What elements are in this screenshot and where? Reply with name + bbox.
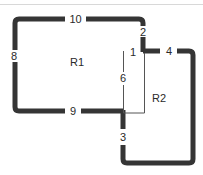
- edge-label-2: 2: [140, 26, 146, 38]
- edge-label-4: 4: [166, 45, 172, 57]
- edge-label-3: 3: [120, 131, 126, 143]
- region-label-r2: R2: [152, 92, 166, 104]
- region-diagram: 10 2 1 4 8 6 9 3 R1 R2: [0, 0, 203, 175]
- edge-label-9: 9: [70, 105, 76, 117]
- edge-label-8: 8: [11, 50, 17, 62]
- edge-10-right-segment: [86, 19, 143, 26]
- edge-label-10: 10: [69, 13, 81, 25]
- region-label-r1: R1: [70, 56, 84, 68]
- edge-8-segment: [15, 62, 65, 111]
- edge-10-left-segment: [15, 19, 65, 50]
- edge-1-line: [124, 53, 145, 113]
- edge-label-1: 1: [130, 46, 136, 58]
- edge-4-right-segment: [123, 51, 193, 163]
- edge-label-6: 6: [120, 72, 126, 84]
